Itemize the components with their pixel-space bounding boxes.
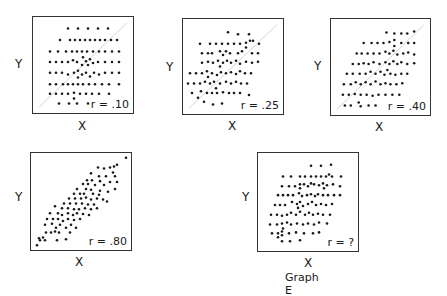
data-point	[93, 203, 96, 206]
x-axis-label: X	[78, 119, 86, 133]
data-point	[395, 83, 398, 85]
data-point	[312, 232, 315, 235]
data-point	[230, 71, 233, 73]
data-point	[329, 213, 332, 216]
data-point	[104, 39, 107, 41]
data-point	[92, 192, 95, 195]
data-point	[94, 83, 97, 85]
data-point	[313, 183, 316, 186]
data-point	[228, 92, 231, 94]
data-point	[201, 72, 204, 74]
data-point	[400, 32, 403, 34]
data-point	[282, 175, 285, 178]
data-point	[299, 175, 302, 178]
data-point	[62, 83, 65, 85]
data-point	[323, 187, 326, 190]
data-point	[299, 183, 302, 186]
data-point	[85, 93, 88, 95]
data-point	[394, 73, 397, 75]
data-point	[67, 93, 70, 95]
data-point	[215, 42, 218, 44]
data-point	[221, 42, 224, 44]
data-point	[274, 204, 277, 207]
data-point	[339, 194, 342, 197]
data-point	[299, 211, 302, 214]
data-point	[206, 70, 209, 72]
data-point	[389, 72, 392, 74]
correlation-label: r = .10	[91, 98, 129, 111]
x-axis-label: X	[304, 256, 312, 270]
data-point	[327, 194, 330, 197]
data-point	[111, 50, 114, 52]
data-point	[299, 239, 302, 242]
data-point	[328, 173, 331, 176]
data-point	[59, 224, 62, 227]
data-point	[200, 90, 203, 92]
data-point	[360, 52, 363, 54]
data-point	[355, 52, 358, 54]
data-point	[65, 50, 68, 52]
data-point	[378, 63, 381, 65]
data-point	[378, 52, 381, 54]
data-point	[74, 197, 77, 200]
data-point	[65, 238, 68, 241]
data-point	[44, 224, 47, 227]
y-axis-label: Y	[15, 57, 22, 71]
data-point	[113, 165, 116, 168]
data-point	[376, 42, 379, 44]
data-point	[85, 188, 88, 191]
data-point	[90, 198, 93, 201]
data-point	[248, 94, 251, 96]
data-point	[116, 163, 119, 166]
data-point	[304, 175, 307, 178]
data-point	[276, 213, 279, 216]
data-point	[65, 226, 68, 229]
data-point	[398, 94, 401, 96]
data-point	[379, 83, 382, 85]
data-point	[81, 64, 84, 66]
data-point	[90, 208, 93, 211]
data-point	[56, 239, 59, 242]
data-point	[49, 93, 52, 95]
plot-area-b: r = .25	[182, 18, 284, 115]
data-point	[69, 231, 72, 234]
data-point	[310, 164, 313, 167]
data-point	[354, 81, 357, 83]
data-point	[189, 72, 192, 74]
data-point	[87, 64, 90, 66]
data-point	[303, 183, 306, 186]
data-point	[245, 42, 248, 44]
data-point	[82, 56, 85, 58]
data-point	[257, 61, 260, 63]
data-point	[85, 60, 88, 62]
data-point	[385, 31, 388, 33]
data-point	[396, 63, 399, 65]
data-point	[219, 65, 222, 67]
data-point	[251, 61, 254, 63]
data-point	[331, 175, 334, 178]
data-point	[91, 93, 94, 95]
data-point	[90, 189, 93, 192]
data-point	[362, 62, 365, 64]
data-point	[325, 175, 328, 178]
graph-e-caption: Graph E	[285, 271, 319, 296]
data-point	[340, 175, 343, 178]
data-point	[82, 183, 85, 186]
data-point	[235, 73, 238, 75]
data-point	[358, 72, 361, 74]
data-point	[59, 39, 62, 41]
data-point	[57, 218, 60, 221]
data-point	[103, 167, 106, 170]
data-point	[384, 50, 387, 52]
data-point	[351, 63, 354, 65]
data-point	[73, 219, 76, 222]
data-point	[99, 180, 102, 183]
data-point	[61, 93, 64, 95]
data-point	[269, 223, 272, 226]
data-point	[58, 102, 61, 104]
data-point	[207, 76, 210, 78]
data-point	[102, 198, 105, 201]
data-point	[339, 185, 342, 188]
data-point	[304, 213, 307, 216]
data-point	[67, 218, 70, 221]
